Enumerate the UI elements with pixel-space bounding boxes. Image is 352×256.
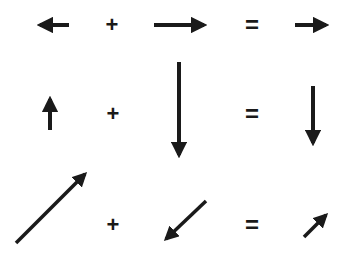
plus-sign: + (107, 101, 120, 126)
equals-sign: = (245, 100, 259, 127)
equals-sign: = (245, 211, 259, 238)
row-1: + = (40, 11, 326, 38)
plus-sign: + (107, 212, 120, 237)
row-2: + = (50, 62, 313, 155)
row-3: + = (16, 174, 326, 243)
vector-addition-diagram: + = + = + = (0, 0, 352, 256)
equals-sign: = (245, 11, 259, 38)
arrow-down-left-icon (166, 201, 206, 239)
plus-sign: + (106, 12, 119, 37)
result-arrow-up-right-icon (304, 215, 326, 237)
arrow-up-right-icon (16, 174, 85, 243)
